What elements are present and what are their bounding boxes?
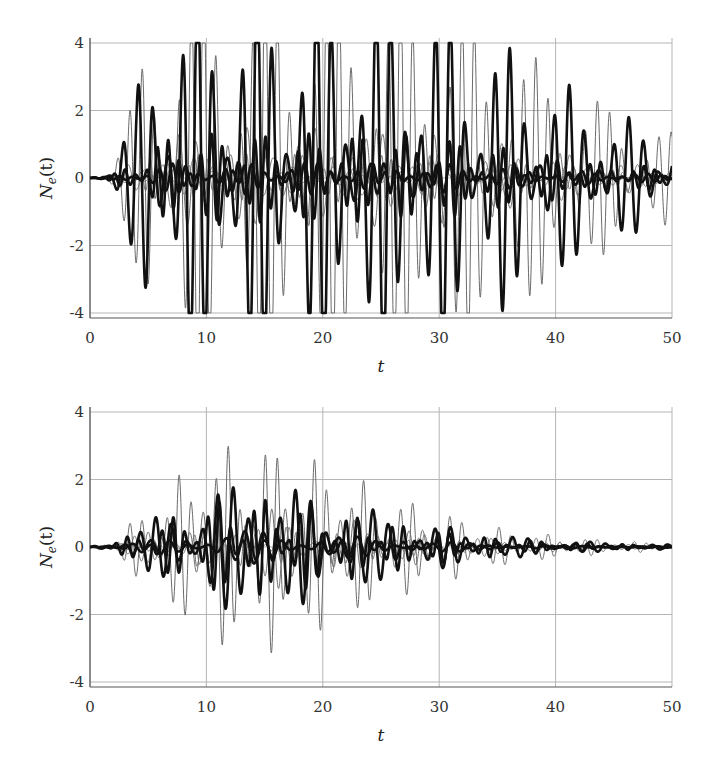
y-axis-label: Ne(t) (36, 157, 59, 200)
top-plot: 01020304050-4-2024tNe(t) (0, 0, 713, 380)
y-tick-label: -4 (69, 304, 84, 322)
x-axis-label: t (378, 725, 385, 745)
figure-caption-fragment (0, 766, 713, 773)
y-tick-label: -4 (69, 673, 84, 691)
y-tick-label: 4 (74, 34, 84, 52)
x-tick-label: 50 (662, 698, 681, 716)
x-tick-label: 30 (430, 698, 449, 716)
y-tick-label: 4 (74, 403, 84, 421)
y-tick-label: 2 (74, 102, 84, 120)
bottom-plot: 01020304050-4-2024tNe(t) (0, 390, 713, 766)
series-group (90, 43, 672, 313)
y-tick-label: -2 (69, 606, 84, 624)
bottom-plot-canvas: 01020304050-4-2024tNe(t) (0, 390, 713, 766)
x-tick-label: 0 (85, 698, 95, 716)
y-tick-label: -2 (69, 237, 84, 255)
x-axis-label: t (378, 356, 385, 376)
x-tick-label: 30 (430, 329, 449, 347)
x-tick-label: 40 (546, 698, 565, 716)
y-tick-label: 0 (74, 169, 84, 187)
x-tick-label: 50 (662, 329, 681, 347)
series-group (90, 446, 672, 653)
y-axis-label: Ne(t) (36, 526, 59, 569)
y-tick-label: 0 (74, 538, 84, 556)
top-plot-canvas: 01020304050-4-2024tNe(t) (0, 0, 713, 380)
x-tick-label: 0 (85, 329, 95, 347)
x-tick-label: 10 (197, 329, 216, 347)
x-tick-label: 20 (313, 329, 332, 347)
y-tick-label: 2 (74, 471, 84, 489)
x-tick-label: 20 (313, 698, 332, 716)
axes: 01020304050-4-2024tNe(t) (36, 403, 682, 745)
x-tick-label: 10 (197, 698, 216, 716)
x-tick-label: 40 (546, 329, 565, 347)
